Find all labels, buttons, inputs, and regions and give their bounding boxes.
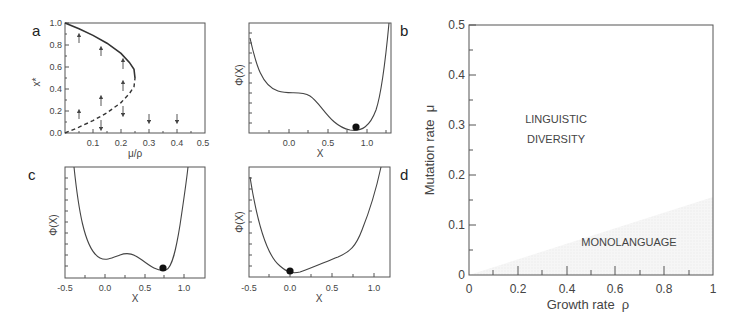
stable-branch [65,23,135,78]
phase-ytick: 0.3 [448,118,465,132]
phase-ylabel: Mutation rate μ [422,105,437,196]
panel-a-letter: a [32,22,41,39]
panel-b: b 0.0 0.5 1.0 X Φ(X) [234,22,408,159]
panel-d-letter: d [400,166,408,183]
ball-icon [352,123,359,130]
a-ytick-0.8: 0.8 [49,40,62,50]
phase-xtick: 0.4 [559,282,576,296]
panel-d-frame [249,167,390,277]
a-xtick: 0.1 [87,138,100,148]
a-ytick-0.6: 0.6 [49,62,62,72]
c-xtick: -0.5 [57,283,73,293]
b-xtick: 0.5 [322,138,335,148]
phase-ytick: 0.4 [448,68,465,82]
phase-xtick: 0.6 [607,282,624,296]
a-xtick: 0.2 [115,138,128,148]
d-xtick: 1.0 [368,283,381,293]
a-xtick: 0.5 [197,138,210,148]
d-xtick: 0.5 [326,283,339,293]
panel-a: a 1.0 0.8 0.6 0.4 0.2 0.0 0.1 0.2 0.3 0.… [31,18,209,159]
panel-b-ticks [249,33,386,133]
panel-a-yticks [65,23,191,133]
phase-xtick: 0.2 [510,282,527,296]
region-label-diversity: DIVERSITY [527,133,586,145]
c-xtick: 1.0 [178,283,191,293]
a-ytick-0.2: 0.2 [49,106,62,116]
c-ylabel: Φ(X) [48,214,59,235]
b-xtick: 0.0 [283,138,296,148]
phase-xtick: 0 [466,282,473,296]
b-ylabel: Φ(X) [234,64,245,85]
phase-ytick: 0.2 [448,168,465,182]
phase-xtick: 0.8 [656,282,673,296]
phase-diagram: 0.5 0.4 0.3 0.2 0.1 0 0 0.2 0.4 0.6 0.8 … [422,18,717,312]
a-xtick: 0.4 [171,138,184,148]
panel-b-frame [249,23,391,133]
a-ytick-1.0: 1.0 [49,18,62,28]
phase-ytick: 0.1 [448,218,465,232]
ball-icon [286,267,293,274]
phase-xlabel: Growth rate ρ [547,297,630,312]
a-ylabel: x* [31,77,42,86]
phase-xtick: 1 [710,282,717,296]
ball-icon [159,264,166,271]
c-xtick: 0.0 [99,283,112,293]
region-label-linguistic: LINGUISTIC [525,113,587,125]
a-ytick-0.0: 0.0 [49,128,62,138]
panel-c-letter: c [28,166,36,183]
d-xtick: -0.5 [241,283,257,293]
panel-d: d -0.5 0.0 0.5 1.0 X Φ(X) [234,166,408,304]
a-ytick-0.4: 0.4 [49,84,62,94]
d-ylabel: Φ(X) [234,211,245,232]
panel-d-ticks [249,178,374,277]
panel-c-ticks [65,178,184,278]
b-xlabel: X [317,148,324,159]
figure: a 1.0 0.8 0.6 0.4 0.2 0.0 0.1 0.2 0.3 0.… [0,0,744,326]
a-xlabel: μ/ρ [128,148,143,159]
b-xtick: 1.0 [361,138,374,148]
phase-ytick: 0.5 [448,18,465,32]
panel-c-frame [65,167,205,278]
c-xtick: 0.5 [139,283,152,293]
d-xtick: 0.0 [284,283,297,293]
d-xlabel: X [316,293,323,304]
panel-b-letter: b [400,22,408,39]
d-potential-curve [250,167,381,273]
phase-ytick: 0 [458,268,465,282]
flow-arrows [79,35,177,129]
b-potential-curve [250,23,389,130]
a-xtick: 0.3 [143,138,156,148]
c-potential-curve [74,167,188,270]
region-label-monolanguage: MONOLANGUAGE [581,236,676,248]
panel-c: c -0.5 0.0 0.5 1.0 X Φ(X) [28,166,205,304]
c-xlabel: X [132,293,139,304]
unstable-branch [65,78,135,133]
